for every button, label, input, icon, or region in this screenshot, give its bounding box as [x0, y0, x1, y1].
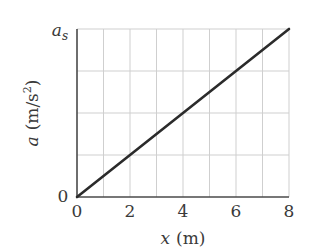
- x-tick-label: 2: [125, 201, 136, 221]
- y-axis-label-exp: 2: [21, 86, 34, 93]
- y-tick-top-sub: s: [62, 29, 68, 43]
- y-axis-label-close: ): [22, 80, 42, 87]
- y-tick-top-var: a: [52, 20, 62, 40]
- x-tick-label: 4: [178, 201, 189, 221]
- y-tick-label-zero: 0: [58, 186, 69, 206]
- acceleration-vs-position-chart: 02468 0 as x(m) a(m/s2): [0, 0, 315, 252]
- y-axis-label-unit: (m/s: [22, 93, 42, 130]
- x-axis-label: x(m): [161, 228, 206, 248]
- x-tick-label: 0: [72, 201, 83, 221]
- y-axis-label-var: a: [22, 136, 42, 146]
- x-tick-labels: 02468: [72, 201, 295, 221]
- y-tick-label-top: as: [52, 20, 68, 43]
- x-axis-label-var: x: [161, 228, 171, 248]
- x-axis-label-unit: (m): [176, 228, 205, 248]
- x-tick-label: 6: [231, 201, 242, 221]
- x-tick-label: 8: [284, 201, 295, 221]
- y-axis-label: a(m/s2): [21, 80, 42, 147]
